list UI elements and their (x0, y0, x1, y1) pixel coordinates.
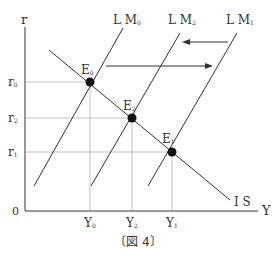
origin-label: 0 (12, 205, 19, 218)
lm2-label: L M2 (168, 13, 196, 27)
x-axis-label: Y (261, 203, 271, 218)
r2-tick-label: r2 (8, 111, 18, 125)
is-curve (49, 50, 230, 200)
figure-caption: 〔図 4〕 (0, 232, 276, 249)
guide-lines (25, 82, 172, 211)
lm1-label: L M1 (226, 13, 254, 27)
arrow-left (182, 39, 228, 45)
y1-tick-label: Y1 (165, 216, 178, 230)
lm1-curve (148, 33, 237, 186)
point-e2 (128, 114, 137, 123)
point-e1 (168, 148, 177, 157)
e0-label: E0 (81, 63, 94, 77)
is-lm-diagram: r Y 0 L M0 L M2 L M1 I S E0 E2 E1 r0 r2 … (0, 0, 276, 255)
y2-tick-label: Y2 (125, 216, 138, 230)
r1-tick-label: r1 (8, 145, 18, 159)
e2-label: E2 (123, 99, 136, 113)
e1-label: E1 (162, 132, 175, 146)
point-e0 (86, 78, 95, 87)
lm0-label: L M0 (113, 13, 141, 27)
y0-tick-label: Y0 (83, 216, 96, 230)
is-label: I S (234, 195, 251, 209)
lm0-curve (34, 28, 123, 186)
r0-tick-label: r0 (8, 75, 18, 89)
y-axis-label: r (21, 12, 28, 27)
